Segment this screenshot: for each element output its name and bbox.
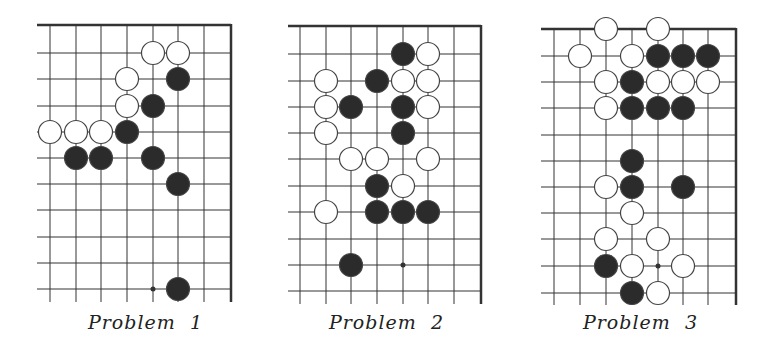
- white-stone: [142, 42, 165, 65]
- black-stone: [65, 147, 88, 170]
- white-stone: [65, 121, 88, 144]
- white-stone: [417, 43, 440, 66]
- white-stone: [595, 97, 618, 120]
- black-stone: [340, 254, 363, 277]
- white-stone: [39, 121, 62, 144]
- black-stone: [392, 122, 415, 145]
- white-stone: [315, 201, 338, 224]
- white-stone: [621, 255, 644, 278]
- white-stone: [595, 228, 618, 251]
- star-point: [151, 287, 156, 292]
- problem-2-label: Problem 2: [329, 311, 444, 333]
- problem-3-label: Problem 3: [583, 311, 698, 333]
- star-point: [401, 263, 406, 268]
- black-stone: [392, 201, 415, 224]
- white-stone: [595, 71, 618, 94]
- black-stone: [647, 97, 670, 120]
- black-stone: [167, 278, 190, 301]
- white-stone: [647, 18, 670, 41]
- black-stone: [621, 97, 644, 120]
- black-stone: [142, 147, 165, 170]
- black-stone: [621, 176, 644, 199]
- go-board-1: [37, 24, 231, 302]
- white-stone: [569, 45, 592, 68]
- black-stone: [672, 45, 695, 68]
- black-stone: [90, 147, 113, 170]
- black-stone: [672, 97, 695, 120]
- white-stone: [392, 175, 415, 198]
- black-stone: [167, 173, 190, 196]
- white-stone: [417, 70, 440, 93]
- white-stone: [697, 71, 720, 94]
- white-stone: [621, 202, 644, 225]
- black-stone: [366, 201, 389, 224]
- white-stone: [366, 148, 389, 171]
- white-stone: [621, 45, 644, 68]
- black-stone: [167, 68, 190, 91]
- white-stone: [672, 71, 695, 94]
- black-stone: [392, 96, 415, 119]
- white-stone: [417, 96, 440, 119]
- white-stone: [647, 282, 670, 305]
- black-stone: [621, 71, 644, 94]
- star-point: [656, 264, 661, 269]
- black-stone: [621, 150, 644, 173]
- white-stone: [595, 18, 618, 41]
- black-stone: [340, 96, 363, 119]
- white-stone: [315, 96, 338, 119]
- white-stone: [392, 70, 415, 93]
- black-stone: [621, 282, 644, 305]
- go-board-3: [541, 18, 736, 306]
- white-stone: [417, 148, 440, 171]
- black-stone: [142, 95, 165, 118]
- boards-canvas: [0, 0, 771, 358]
- white-stone: [315, 122, 338, 145]
- white-stone: [672, 255, 695, 278]
- black-stone: [672, 176, 695, 199]
- white-stone: [315, 70, 338, 93]
- white-stone: [647, 228, 670, 251]
- black-stone: [417, 201, 440, 224]
- black-stone: [366, 70, 389, 93]
- white-stone: [647, 71, 670, 94]
- black-stone: [116, 121, 139, 144]
- white-stone: [90, 121, 113, 144]
- black-stone: [366, 175, 389, 198]
- go-board-2: [288, 25, 481, 304]
- black-stone: [595, 255, 618, 278]
- white-stone: [167, 42, 190, 65]
- white-stone: [340, 148, 363, 171]
- black-stone: [392, 43, 415, 66]
- problem-1-label: Problem 1: [88, 311, 203, 333]
- black-stone: [647, 45, 670, 68]
- white-stone: [116, 68, 139, 91]
- white-stone: [116, 95, 139, 118]
- white-stone: [595, 176, 618, 199]
- black-stone: [697, 45, 720, 68]
